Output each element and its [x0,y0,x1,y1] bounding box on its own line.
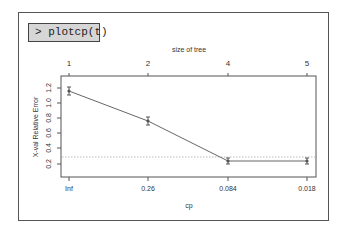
data-point [226,159,229,162]
y-tick-label: 0.4 [45,143,52,153]
y-tick-label: 0.6 [45,128,52,138]
top-tick-label: 5 [305,59,310,68]
x-tick-label: Inf [65,185,73,192]
x-tick-label: 0.084 [219,185,237,192]
top-tick-label: 4 [226,59,231,68]
data-point [146,119,149,122]
y-tick-label: 0.8 [45,113,52,123]
y-tick-label: 0.2 [45,159,52,169]
error-line [69,91,307,161]
error-bars [67,87,309,164]
top-tick-label: 2 [146,59,151,68]
y-axis-label: X-val Relative Error [32,96,39,157]
y-tick-label: 1.2 [45,83,52,93]
data-point [67,89,70,92]
y-axis-ticks [57,88,61,164]
top-tick-label: 1 [67,59,72,68]
x-tick-label: 0.018 [298,185,316,192]
plot-area [61,76,316,177]
x-tick-label: 0.26 [141,185,155,192]
cp-plot: size of tree 1 2 4 5 Inf 0.26 0.084 0.01… [0,0,341,234]
y-tick-label: 1.0 [45,98,52,108]
top-axis-label: size of tree [172,46,206,53]
x-axis-label: cp [185,202,193,210]
data-points [67,89,308,162]
bottom-axis-ticks [69,177,307,181]
data-point [305,159,308,162]
